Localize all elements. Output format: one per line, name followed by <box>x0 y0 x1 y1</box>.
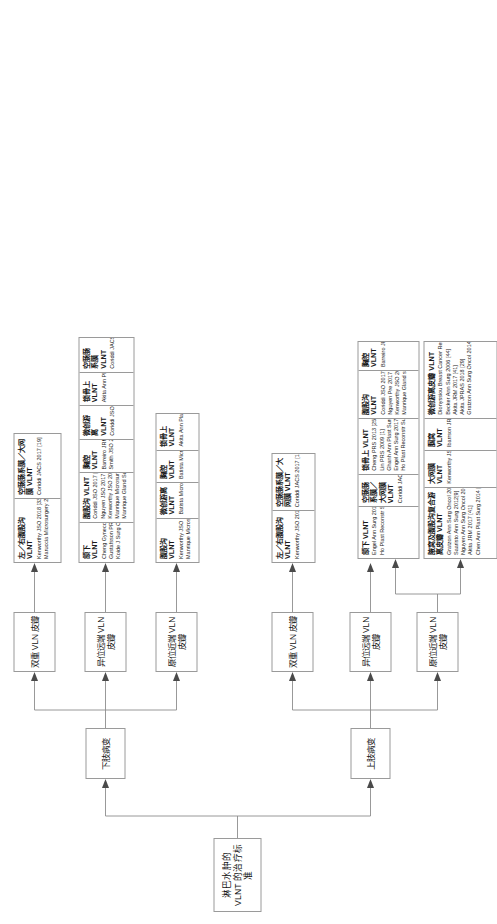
leaf-header: 锁骨上 VLNT <box>361 422 369 471</box>
node-lower-dual-flap[interactable]: 双重 VLN 皮瓣 <box>13 612 55 672</box>
leaf-header: 微创游离 VLNT <box>159 486 176 515</box>
leaf-cell[interactable]: 胸腔 VLNT Batista Microsurgery 2017 [34] <box>156 450 198 483</box>
leaf-cell[interactable]: 胸腔 VLNT Barreiro JRM 2014 [6] Smith JSO … <box>79 439 133 473</box>
leaf-ref: Smith JSO 2017 [7] <box>107 443 114 470</box>
node-label: 上肢病变 <box>365 738 376 770</box>
leaf-ref: Coriddi JACS 2017 [19] <box>293 457 300 507</box>
leaf-cell[interactable]: 胸腔 VLNT Barreiro JRM 2014 [6] <box>358 342 418 370</box>
leaf-ref: Cheng PRS 2013 [25] <box>370 422 377 471</box>
leaf-ref: Akita Ann Plast Surg 2015[13] <box>100 376 107 403</box>
leaf-cell[interactable]: 腹股沟 VLNT Coriddi JSO 2017 [20] Nguyen JS… <box>79 472 133 521</box>
leaf-header: 空肠肠系膜／大网膜 VLNT <box>361 478 395 503</box>
leaf-ref: Coriddi JSO 2017 [20] <box>91 476 98 518</box>
leaf-ref: Akita JRM 2017 [41] <box>451 345 458 415</box>
leaf-ref: Kenworthy JSO 2018 [33] <box>177 522 184 559</box>
node-upper-limb[interactable]: 上肢病变 <box>350 728 390 779</box>
node-lower-proximal-flap[interactable]: 原位近端 VLN 皮瓣 <box>155 612 197 672</box>
node-label: 双重 VLN 皮瓣 <box>287 616 298 669</box>
leaf-ref: Batista Microsurgery 2017[34] <box>177 486 184 515</box>
leaf-cell[interactable]: 锁骨上 VLNT Akita Ann Plast Surg 2015[13] <box>79 372 133 406</box>
leaf-header: 颌下 VLNT <box>82 526 99 559</box>
leaf-header: 左／右腹股沟 VLNT <box>17 502 34 559</box>
leaf-ref: Saaristo Ann Surg 2012[9] <box>452 491 459 555</box>
leaf-ref: Koide J Surg Oncol 2020 [38] <box>114 526 121 559</box>
leaf-cell[interactable]: 微创游离皮瓣 VLNT Dionyssiou Breast Cancer Res… <box>424 342 496 418</box>
leafgroup-lower-proximal: 腹股沟 VLNT Kenworthy JSO 2018 [33] Manriqu… <box>155 413 199 563</box>
node-lower-limb[interactable]: 下肢病变 <box>85 728 125 779</box>
leaf-ref: Manrique Microsurgery 2019[40] <box>184 522 191 559</box>
leaf-header: 腹股沟 VLNT <box>159 522 176 559</box>
leaf-header: 颌下 VLNT <box>361 510 369 555</box>
leaf-ref: Nguyen Ann Surg Oncol 2015 [10] <box>459 491 466 555</box>
page-title: 淋巴水肿的 VLNT 的治疗标准 <box>221 841 253 909</box>
leaf-cell[interactable]: 空肠肠系膜／大网膜 VLNT Coriddi JACS 2017 [19] <box>272 454 314 510</box>
leaf-cell[interactable]: 微创游离 VLNT Batista Microsurgery 2017[34] <box>156 482 198 518</box>
leaf-cell[interactable]: 微创游离 VLNT Coriddi JSO 2017 [20] <box>79 405 133 439</box>
leaf-cell[interactable]: 左／右腹股沟 VLNT Kenworthy JSO 2018 [33] Maru… <box>14 498 60 562</box>
leaf-ref: Kenworthy JSO 2018 [33] <box>106 476 113 518</box>
leaf-cell[interactable]: 锁骨上 VLNT Cheng PRS 2013 [25] Lin PRS 200… <box>358 418 418 474</box>
leaf-ref: Kenworthy JSO 2018 [33] <box>293 514 300 559</box>
leafgroup-upper-distal: 颌下 VLNT Engel Ann Surg 2017[30] Ho Plast… <box>357 341 419 559</box>
leaf-ref: Engel Ann Surg 2017 [30] <box>392 422 399 471</box>
leaf-cell[interactable]: 腘窝 VLNT Ibarrson JRM 2014 [6] <box>424 418 496 450</box>
leaf-ref: Batista Microsurgery 2017 [34] <box>177 454 184 480</box>
leaf-cell[interactable]: 空肠肠系膜 VLNT Coriddi JACS 2017 [19] <box>79 338 133 372</box>
leaf-ref: Ibarrson JRM 2014 [6] <box>445 422 452 447</box>
node-label: 异位远端 VLN 皮瓣 <box>360 615 381 669</box>
node-label: 原位近端 VLN 皮瓣 <box>166 615 187 669</box>
leaf-ref: Cheng Gynecol Oncol 2012 [15] <box>100 526 107 559</box>
leaf-cell[interactable]: 大网膜 VLNT Kenworthy JSO 2018 [33] <box>424 450 496 487</box>
leaf-cell[interactable]: 空肠肠系膜／大网膜 VLNT Coriddi JACS 2017 [19] <box>14 434 60 498</box>
leaf-header: 左／右腹股沟 VLNT <box>275 514 292 559</box>
leaf-cell[interactable]: 颌下 VLNT Engel Ann Surg 2017[30] Ho Plast… <box>358 506 418 558</box>
leaf-header: 锁骨上 VLNT <box>159 417 176 447</box>
leaf-header: 胸腔 VLNT <box>82 443 99 470</box>
node-upper-proximal-flap[interactable]: 原位近端 VLN 皮瓣 <box>416 612 458 672</box>
leaf-cell[interactable]: 锁骨上 VLNT Akita Ann Plast Surg 2015 [13] <box>156 414 198 450</box>
leaf-ref: Maruccia Microsurgery 2019 [40] <box>42 502 49 559</box>
node-upper-distal-flap[interactable]: 异位远端 VLN 皮瓣 <box>349 612 391 672</box>
leaf-cell[interactable]: 左／右腹股沟 VLNT Kenworthy JSO 2018 [33] <box>272 510 314 562</box>
leaf-header: 大网膜 VLNT <box>427 454 444 484</box>
leaf-ref: Kenworthy JSO 2018 [33] <box>393 374 400 415</box>
leaf-ref: Kenworthy JSO 2018 [33] <box>35 502 42 559</box>
leaf-ref: Coriddi JSO 2017 [20] <box>108 409 115 436</box>
leaf-cell[interactable]: 空肠肠系膜／大网膜 VLNT Coriddi JACS 2017 [19] <box>358 474 418 506</box>
leaf-ref: Manrique Microsurgery 2019 [40] <box>113 476 120 518</box>
leafgroup-lower-distal: 颌下 VLNT Cheng Gynecol Oncol 2012 [15] Gu… <box>78 337 134 563</box>
leaf-ref: Akita JPRAS 2018 [29] <box>458 345 465 415</box>
leaf-header: 腹股沟 VLNT <box>361 374 378 415</box>
leaf-ref: Nguyen Pre 2017 [18] <box>386 374 393 415</box>
leaf-ref: Lin PRS 2009 [1] <box>378 422 385 471</box>
leaf-ref: Becker Ann Surg 2006 [44] <box>444 345 451 415</box>
leaf-cell[interactable]: 腹股沟 VLNT Kenworthy JSO 2018 [33] Manriqu… <box>156 518 198 562</box>
leaf-ref: Coriddi JACS 2017 [19] <box>396 478 403 503</box>
node-label: 原位近端 VLN 皮瓣 <box>427 615 448 669</box>
leaf-ref: Gratzon Ann Surg Oncol 2014 [46] <box>465 345 472 415</box>
leaf-cell[interactable]: 腋窝及腹股沟复合游离皮瓣 VLNT Gratzon Ann Surg Oncol… <box>424 487 496 558</box>
node-lower-distal-flap[interactable]: 异位远端 VLN 皮瓣 <box>84 612 126 672</box>
leaf-header: 微创游离 VLNT <box>82 409 107 436</box>
leaf-ref: Coriddi JSO 2017 [20] <box>379 374 386 415</box>
leaf-ref: Engel Ann Surg 2017[30] <box>370 510 377 555</box>
leaf-header: 锁骨上 VLNT <box>82 376 99 403</box>
leaf-ref: Ho Plast Reconstr Surg Glob Open 2018 [1… <box>399 422 406 471</box>
leaf-ref: Coriddi JACS 2017 [19] <box>108 341 115 369</box>
leaf-header: 空肠肠系膜／大网膜 VLNT <box>17 437 34 495</box>
leafgroup-lower-dual: 左／右腹股沟 VLNT Kenworthy JSO 2018 [33] Maru… <box>13 433 61 563</box>
leaf-ref: Gratzon Ann Surg Oncol 2017 [42] <box>445 491 452 555</box>
node-upper-dual-flap[interactable]: 双重 VLN 皮瓣 <box>271 612 313 672</box>
leaf-header: 腋窝及腹股沟复合游离皮瓣 VLNT <box>427 491 444 555</box>
leaf-ref: Coriddi JACS 2017 [19] <box>35 437 42 495</box>
leafgroup-upper-proximal: 腋窝及腹股沟复合游离皮瓣 VLNT Gratzon Ann Surg Oncol… <box>423 341 497 559</box>
leaf-ref: Dionyssiou Breast Cancer Res Treat 2016 … <box>436 345 443 415</box>
leafgroup-upper-dual: 左／右腹股沟 VLNT Kenworthy JSO 2018 [33] 空肠肠系… <box>271 453 315 563</box>
leaf-ref: Kenworthy JSO 2018 [33] <box>445 454 452 484</box>
leaf-ref: Manrique Gland Surg 2020 [41] <box>120 476 127 518</box>
leaf-cell[interactable]: 腹股沟 VLNT Coriddi JSO 2017 [20] Nguyen Pr… <box>358 370 418 418</box>
leaf-header: 空肠肠系膜／大网膜 VLNT <box>275 457 292 507</box>
node-label: 下肢病变 <box>100 738 111 770</box>
leaf-cell[interactable]: 颌下 VLNT Cheng Gynecol Oncol 2012 [15] Gu… <box>79 522 133 562</box>
